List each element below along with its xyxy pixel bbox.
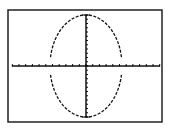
graph-screen bbox=[0, 0, 169, 132]
